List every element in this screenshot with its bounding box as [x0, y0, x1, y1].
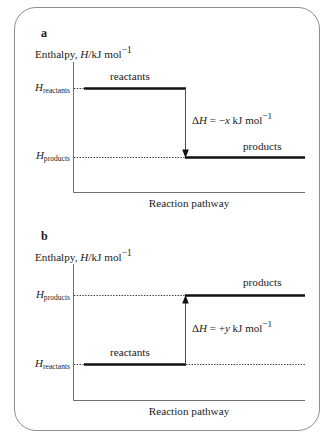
panel-a: a Enthalpy, H/kJ mol−1 Hreactants Hprodu… [0, 0, 333, 219]
panel-a-label-reactants: reactants [110, 70, 150, 82]
panel-b-x-axis-caption: Reaction pathway [73, 405, 305, 417]
panel-b-label-products: products [243, 276, 282, 288]
delta-equals: = [207, 114, 219, 126]
panel-a-label-products: products [243, 140, 282, 152]
panel-a-delta-h-annotation: ΔH = −x kJ mol−1 [192, 110, 272, 126]
panel-a-x-axis-caption: Reaction pathway [73, 197, 305, 209]
panel-a-plot [0, 0, 333, 219]
enthalpy-profile-figure: a Enthalpy, H/kJ mol−1 Hreactants Hprodu… [0, 0, 333, 439]
delta-h-symbol: H [199, 114, 207, 126]
delta-units: kJ mol [230, 322, 262, 334]
delta-units: kJ mol [230, 114, 262, 126]
delta-equals: = [207, 322, 219, 334]
panel-b-delta-h-annotation: ΔH = +y kJ mol−1 [192, 318, 272, 334]
panel-b-label-reactants: reactants [110, 346, 150, 358]
delta-units-exponent: −1 [262, 319, 272, 329]
delta-h-symbol: H [199, 322, 207, 334]
delta-units-exponent: −1 [262, 111, 272, 121]
panel-b: b Enthalpy, H/kJ mol−1 Hproducts Hreacta… [0, 219, 333, 439]
